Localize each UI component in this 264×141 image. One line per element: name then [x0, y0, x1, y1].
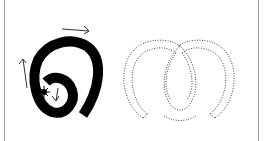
solid-spiral — [34, 41, 98, 115]
figure-canvas — [0, 0, 264, 141]
dotted-loop-outline — [124, 40, 234, 120]
arrow-down-icon — [52, 88, 59, 101]
arrow-right-icon — [62, 26, 89, 34]
arrow-up-icon — [19, 59, 27, 88]
